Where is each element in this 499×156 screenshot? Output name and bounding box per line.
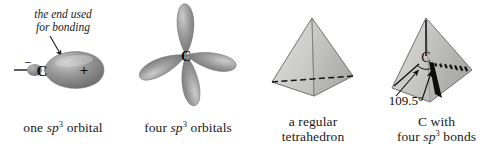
atom-label-c: C [181, 49, 191, 64]
caption-line-1: four sp3 orbitals [124, 120, 252, 135]
tetrahedron-face-right [426, 18, 472, 102]
caption-line-2: tetrahedron [252, 129, 374, 144]
pointer-arrow [50, 36, 62, 56]
caption-text-post: bonds [440, 129, 476, 144]
caption-four-sp3-orbitals: four sp3 orbitals [124, 120, 252, 135]
atom-label-c: C [421, 50, 430, 65]
caption-regular-tetrahedron: a regular tetrahedron [252, 114, 374, 144]
bond-angle-label: 109.5° [389, 93, 423, 108]
caption-text-post: orbitals [187, 120, 232, 135]
caption-text-pre: four [144, 120, 170, 135]
caption-text-pre: four [397, 129, 423, 144]
one-sp3-orbital-art: – C + [0, 0, 126, 110]
caption-line-1: a regular [252, 114, 374, 129]
panel-one-sp3-orbital: the end used for bonding [0, 0, 126, 156]
caption-line-1: one sp3 orbital [0, 120, 126, 135]
caption-c-with-four-sp3-bonds: C with four sp3 bonds [374, 114, 499, 144]
panel-c-with-four-sp3-bonds: C 109.5° C with four sp3 bonds [374, 0, 499, 156]
caption-text-italic: sp [47, 120, 59, 135]
atom-label-c: C [37, 63, 48, 79]
four-sp3-orbitals-art: C [124, 0, 252, 112]
caption-text-post: orbital [63, 120, 102, 135]
panel-regular-tetrahedron: a regular tetrahedron [252, 0, 374, 156]
tetrahedron-face-right [312, 18, 353, 96]
caption-text-italic: sp [423, 129, 435, 144]
c-with-four-sp3-bonds-art: C 109.5° [374, 0, 499, 112]
caption-text-pre: one [23, 120, 46, 135]
regular-tetrahedron-art [252, 0, 374, 112]
caption-text-italic: sp [171, 120, 183, 135]
caption-one-sp3-orbital: one sp3 orbital [0, 120, 126, 135]
sp3-orbital-figure: the end used for bonding [0, 0, 499, 156]
back-lobe-sign: – [24, 55, 31, 67]
panel-four-sp3-orbitals: C four sp3 orbitals [124, 0, 252, 156]
front-lobe-sign: + [80, 62, 89, 78]
caption-line-2: four sp3 bonds [374, 129, 499, 144]
